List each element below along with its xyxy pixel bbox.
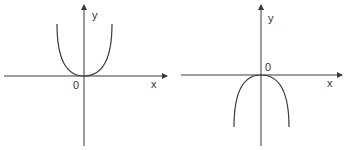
right-x-label: x bbox=[327, 77, 333, 89]
diagram-canvas: y 0 x y 0 x bbox=[0, 0, 345, 150]
left-y-label: y bbox=[92, 9, 98, 21]
right-y-label: y bbox=[268, 12, 274, 24]
left-graph: y 0 x bbox=[4, 5, 167, 146]
left-origin-label: 0 bbox=[73, 79, 79, 91]
right-graph: y 0 x bbox=[181, 5, 342, 146]
left-x-label: x bbox=[151, 78, 157, 90]
right-origin-label: 0 bbox=[265, 61, 271, 73]
